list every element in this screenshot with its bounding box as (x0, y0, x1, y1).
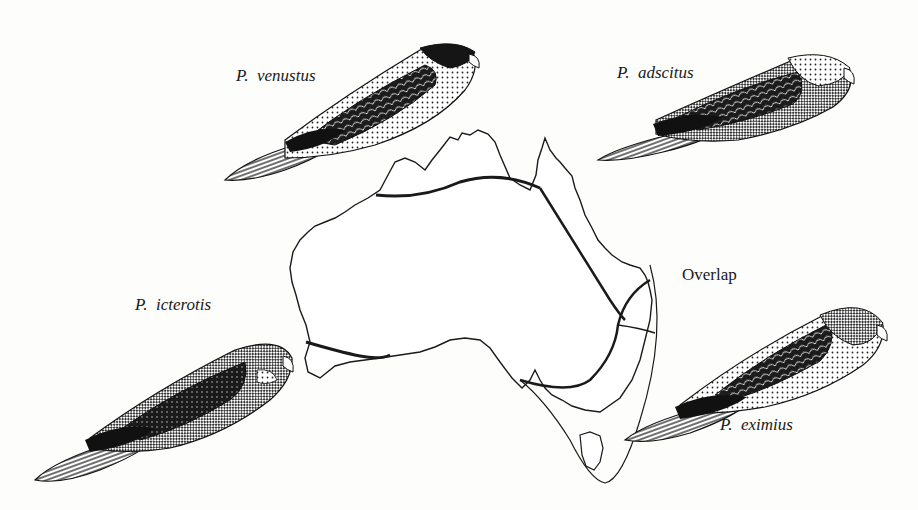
species-label-icterotis: P. icterotis (135, 295, 211, 315)
species-label-eximius: P. eximius (720, 415, 793, 435)
species-epithet: eximius (741, 415, 793, 434)
genus-abbrev: P. (135, 295, 147, 314)
species-label-venustus: P. venustus (236, 66, 316, 86)
australia-map (290, 130, 657, 483)
genus-abbrev: P. (720, 415, 732, 434)
overlap-label: Overlap (682, 265, 737, 285)
species-name-icterotis: P. icterotis (135, 295, 211, 314)
genus-abbrev: P. (236, 66, 248, 85)
species-name-adscitus: P. adscitus (617, 63, 694, 82)
species-epithet: icterotis (156, 295, 211, 314)
species-epithet: venustus (257, 66, 316, 85)
species-name-venustus: P. venustus (236, 66, 316, 85)
genus-abbrev: P. (617, 63, 629, 82)
bird-illustration-icterotis (35, 344, 293, 481)
species-epithet: adscitus (638, 63, 694, 82)
species-label-adscitus: P. adscitus (617, 63, 694, 83)
species-name-eximius: P. eximius (720, 415, 793, 434)
